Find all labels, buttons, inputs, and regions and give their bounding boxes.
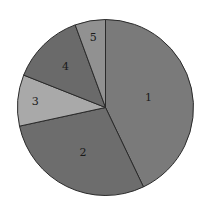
pie-chart: 12345	[0, 0, 209, 206]
slice-label-5: 5	[90, 31, 97, 44]
slice-label-4: 4	[62, 60, 69, 73]
slice-label-1: 1	[145, 91, 152, 104]
pie-slices	[17, 20, 193, 196]
slice-label-2: 2	[80, 146, 87, 159]
slice-label-3: 3	[32, 95, 39, 108]
